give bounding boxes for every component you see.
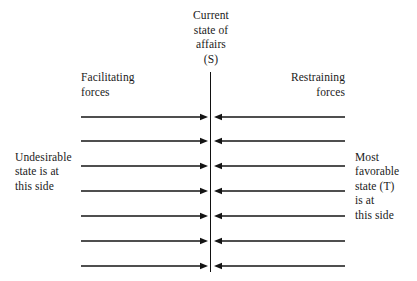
facilitating-arrow-head-4 (200, 188, 208, 194)
restraining-arrow-head-6 (214, 238, 222, 244)
restraining-arrow-head-7 (214, 263, 222, 269)
facilitating-arrow-head-3 (200, 163, 208, 169)
restraining-arrow-head-4 (214, 188, 222, 194)
facilitating-arrow-head-1 (200, 114, 208, 120)
force-field-diagram: Current state of affairs (S) Facilitatin… (0, 0, 417, 281)
restraining-arrow-head-3 (214, 163, 222, 169)
restraining-arrow-head-2 (214, 138, 222, 144)
restraining-arrow-head-1 (214, 114, 222, 120)
facilitating-arrow-head-5 (200, 213, 208, 219)
restraining-arrow-head-5 (214, 213, 222, 219)
force-arrows-layer (0, 0, 417, 281)
facilitating-arrow-head-7 (200, 263, 208, 269)
facilitating-arrow-head-6 (200, 238, 208, 244)
facilitating-arrow-head-2 (200, 138, 208, 144)
